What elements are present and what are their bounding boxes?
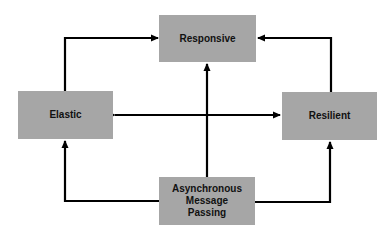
node-elastic-label: Elastic [49,109,81,121]
node-resilient-label: Resilient [309,110,351,122]
arrow-message-to-resilient [255,142,330,202]
node-asynchronous-message-passing: Asynchronous Message Passing [159,177,255,225]
node-message-label: Asynchronous Message Passing [172,183,242,219]
node-elastic: Elastic [18,91,113,139]
node-resilient: Resilient [282,92,377,140]
node-responsive-label: Responsive [179,33,235,45]
arrow-elastic-to-responsive [65,38,158,91]
arrow-message-to-elastic [65,141,159,201]
arrow-resilient-to-responsive [258,38,331,92]
node-responsive: Responsive [159,15,256,62]
